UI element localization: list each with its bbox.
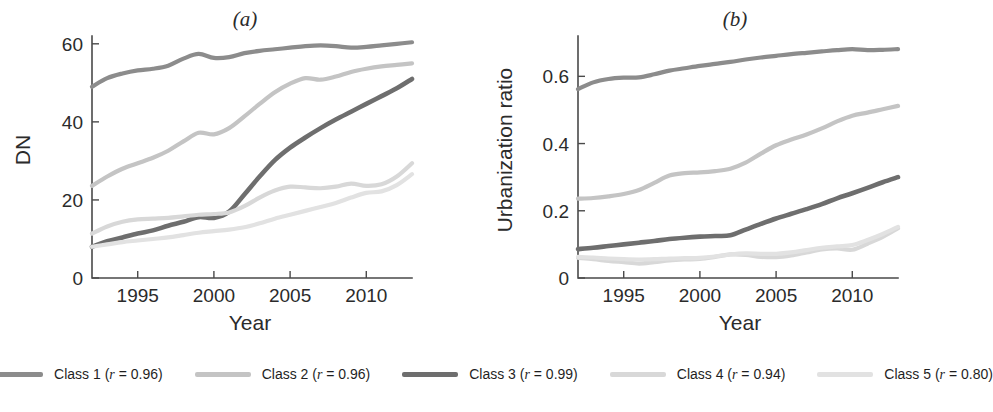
panel-b-series-2 [578,106,898,199]
panel-a-svg: (a) 02040601995200020052010 Year DN [0,0,490,340]
panel-a-ytick-label: 40 [62,112,83,133]
panel-a-series-4 [92,163,412,233]
panel-b-svg: (b) 00.20.40.61995200020052010 Year Urba… [490,0,980,340]
legend-label-1: Class 1 (r = 0.96) [54,366,163,383]
panel-b-ylabel: Urbanization ratio [493,68,516,233]
panel-a-ytick-label: 0 [72,268,83,289]
panel-a-ylabel: DN [11,135,34,165]
panel-b-xtick-label: 2005 [755,285,797,306]
panel-a-xtick-label: 2005 [269,285,311,306]
panel-b-xtick-label: 2000 [679,285,721,306]
panel-b-ytick-label: 0.4 [543,134,570,155]
panel-a-ytick-label: 20 [62,190,83,211]
legend-swatch-icon [402,372,458,377]
panel-a-xtick-label: 1995 [117,285,159,306]
panel-a-series [92,42,412,247]
panel-b-series [578,49,898,263]
legend-item-2[interactable]: Class 2 (r = 0.96) [195,366,371,383]
legend-label-2: Class 2 (r = 0.96) [262,366,371,383]
panel-a-title-group: (a) [233,7,258,31]
panel-b-ytick-label: 0 [558,268,569,289]
panel-b-title-group: (b) [723,7,748,31]
legend-swatch-icon [817,372,873,377]
legend-label-5: Class 5 (r = 0.80) [884,366,993,383]
legend-label-3: Class 3 (r = 0.99) [469,366,578,383]
panel-b-spines [578,36,898,278]
chart-panel-a: (a) 02040601995200020052010 Year DN [0,0,490,340]
legend-swatch-icon [0,372,43,377]
panel-b-series-1 [578,49,898,89]
panel-a-xlabel: Year [229,311,271,334]
panel-b-xtick-label: 1995 [603,285,645,306]
panel-a-title: (a) [233,7,258,31]
legend-label-4: Class 4 (r = 0.94) [677,366,786,383]
legend-swatch-icon [195,372,251,377]
panel-a-series-1 [92,42,412,86]
legend-item-4[interactable]: Class 4 (r = 0.94) [610,366,786,383]
legend-item-3[interactable]: Class 3 (r = 0.99) [402,366,578,383]
panel-a-ytick-label: 60 [62,34,83,55]
legend-item-1[interactable]: Class 1 (r = 0.96) [0,366,163,383]
panel-a-xtick-label: 2010 [345,285,387,306]
panel-b-xlabel: Year [719,311,761,334]
chart-panel-b: (b) 00.20.40.61995200020052010 Year Urba… [490,0,980,340]
panel-container: (a) 02040601995200020052010 Year DN (b) … [0,0,980,340]
panel-b-ytick-label: 0.6 [543,66,569,87]
chart-legend: Class 1 (r = 0.96)Class 2 (r = 0.96)Clas… [0,352,980,396]
panel-a-xtick-label: 2000 [193,285,235,306]
panel-a-series-2 [92,63,412,186]
legend-item-5[interactable]: Class 5 (r = 0.80) [817,366,993,383]
panel-b-title: (b) [723,7,748,31]
panel-b-xtick-label: 2010 [831,285,873,306]
legend-swatch-icon [610,372,666,377]
panel-b-ytick-label: 0.2 [543,201,569,222]
panel-b-series-3 [578,177,898,249]
